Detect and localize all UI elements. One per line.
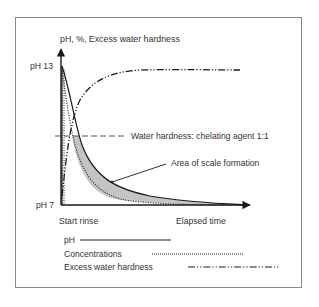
y-axis-label: pH, %, Excess water hardness (60, 35, 180, 44)
area-annotation-label: Area of scale formation (171, 159, 259, 168)
scale-formation-area (72, 136, 244, 205)
x-tick-start-rinse: Start rinse (59, 217, 98, 226)
diagram-canvas (0, 0, 319, 307)
y-tick-ph7: pH 7 (36, 201, 54, 210)
legend-label-excess-hardness: Excess water hardness (64, 263, 153, 272)
y-tick-ph13: pH 13 (30, 62, 53, 71)
x-axis-label: Elapsed time (176, 217, 226, 226)
legend-label-ph: pH (64, 236, 75, 245)
reference-line-label: Water hardness: chelating agent 1:1 (131, 132, 269, 141)
legend-label-concentrations: Concentrations (64, 250, 122, 259)
annotation-leader (112, 164, 166, 182)
